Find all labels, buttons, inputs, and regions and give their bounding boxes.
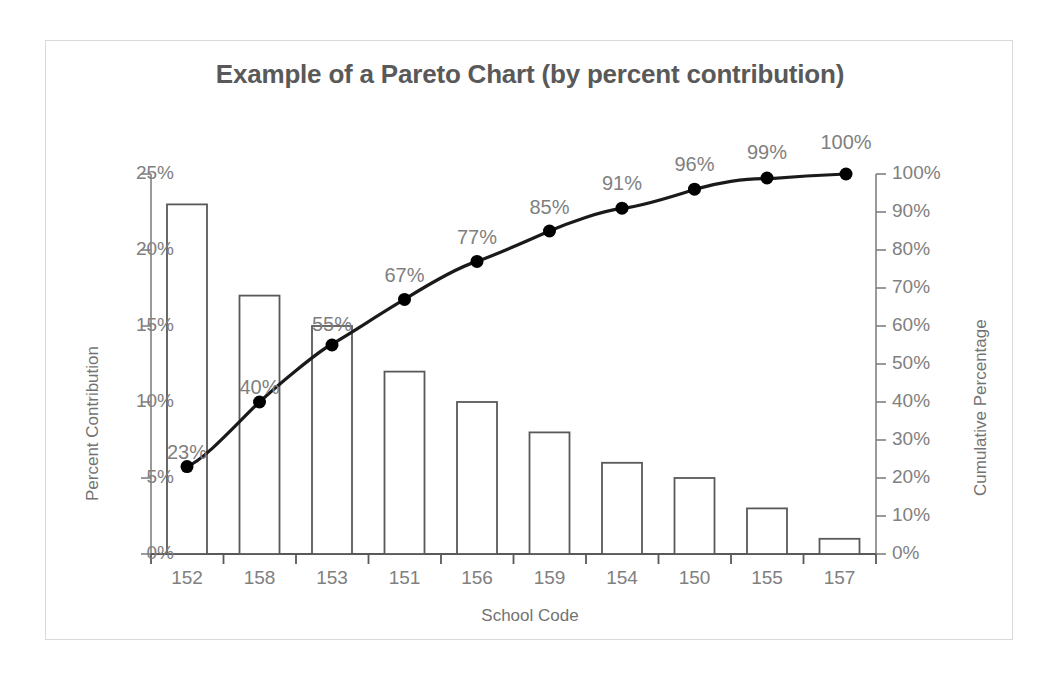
y-right-tick-80: 80% xyxy=(892,238,962,260)
y-left-tick-5: 5% xyxy=(104,466,174,488)
x-label-2: 153 xyxy=(292,567,372,589)
y-left-tick-10: 10% xyxy=(104,390,174,412)
x-label-6: 154 xyxy=(582,567,662,589)
category-axis xyxy=(151,554,876,564)
bar-157 xyxy=(820,539,860,554)
bar-156 xyxy=(457,402,497,554)
cumulative-label-3: 67% xyxy=(370,264,440,287)
cumulative-label-2: 55% xyxy=(297,313,367,336)
cumulative-label-8: 99% xyxy=(732,141,802,164)
bar-159 xyxy=(530,432,570,554)
x-label-4: 156 xyxy=(437,567,517,589)
y-right-tick-60: 60% xyxy=(892,314,962,336)
y-right-tick-30: 30% xyxy=(892,428,962,450)
point-150 xyxy=(688,183,701,196)
y-axis-title-right: Cumulative Percentage xyxy=(971,319,991,496)
y-left-tick-0: 0% xyxy=(104,542,174,564)
left-axis xyxy=(141,174,151,554)
y-right-tick-0: 0% xyxy=(892,542,962,564)
right-axis xyxy=(876,174,886,554)
y-right-tick-50: 50% xyxy=(892,352,962,374)
y-right-tick-90: 90% xyxy=(892,200,962,222)
cumulative-label-7: 96% xyxy=(660,153,730,176)
bar-150 xyxy=(675,478,715,554)
bar-158 xyxy=(240,296,280,554)
cumulative-label-0: 23% xyxy=(152,441,222,464)
x-label-5: 159 xyxy=(510,567,590,589)
y-axis-title-left: Percent Contribution xyxy=(83,346,103,501)
point-153 xyxy=(326,339,339,352)
point-155 xyxy=(761,172,774,185)
cumulative-label-5: 85% xyxy=(515,196,585,219)
cumulative-label-6: 91% xyxy=(587,172,657,195)
chart-container: Example of a Pareto Chart (by percent co… xyxy=(45,40,1013,640)
point-159 xyxy=(543,225,556,238)
x-label-9: 157 xyxy=(800,567,880,589)
y-right-tick-70: 70% xyxy=(892,276,962,298)
y-left-tick-20: 20% xyxy=(104,238,174,260)
x-label-7: 150 xyxy=(655,567,735,589)
bar-151 xyxy=(385,372,425,554)
y-right-tick-20: 20% xyxy=(892,466,962,488)
point-157 xyxy=(840,168,853,181)
y-left-tick-25: 25% xyxy=(104,162,174,184)
cumulative-label-9: 100% xyxy=(811,131,881,154)
x-label-3: 151 xyxy=(365,567,445,589)
point-154 xyxy=(616,202,629,215)
cumulative-label-1: 40% xyxy=(225,376,295,399)
y-right-tick-40: 40% xyxy=(892,390,962,412)
x-label-8: 155 xyxy=(727,567,807,589)
y-left-tick-15: 15% xyxy=(104,314,174,336)
point-156 xyxy=(471,255,484,268)
y-right-tick-100: 100% xyxy=(892,162,962,184)
point-151 xyxy=(398,293,411,306)
y-right-tick-10: 10% xyxy=(892,504,962,526)
x-label-1: 158 xyxy=(220,567,300,589)
bar-154 xyxy=(602,463,642,554)
bar-155 xyxy=(747,508,787,554)
cumulative-label-4: 77% xyxy=(442,226,512,249)
x-label-0: 152 xyxy=(147,567,227,589)
x-axis-title: School Code xyxy=(46,606,1014,626)
bar-153 xyxy=(312,326,352,554)
